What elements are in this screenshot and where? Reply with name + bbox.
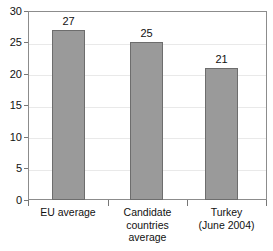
bar-value-candidate-countries-average: 25 <box>130 28 163 39</box>
y-tick-label-15: 15 <box>0 100 22 111</box>
bar-eu-average[interactable] <box>52 30 85 200</box>
x-category-label-candidate-countries-average: Candidate countries average <box>108 206 187 244</box>
x-category-line: Turkey <box>187 206 266 219</box>
x-category-label-turkey-june-2004: Turkey (June 2004) <box>187 206 266 231</box>
y-tick-label-25: 25 <box>0 37 22 48</box>
y-tick-label-30: 30 <box>0 6 22 17</box>
x-tick-mark-end <box>266 200 267 206</box>
x-category-line: (June 2004) <box>187 219 266 232</box>
bar-value-eu-average: 27 <box>52 16 85 27</box>
y-tick-label-10: 10 <box>0 132 22 143</box>
x-category-line: EU average <box>28 206 108 219</box>
x-category-line: average <box>108 231 187 244</box>
bar-value-turkey-june-2004: 21 <box>205 54 238 65</box>
y-tick-label-0: 0 <box>0 195 22 206</box>
bar-turkey-june-2004[interactable] <box>205 68 238 200</box>
y-tick-label-5: 5 <box>0 163 22 174</box>
y-tick-label-20: 20 <box>0 69 22 80</box>
bars-layer <box>28 11 267 200</box>
bar-chart: 30 25 20 15 10 5 0 27 25 21 EU average C… <box>0 0 273 251</box>
x-category-label-eu-average: EU average <box>28 206 108 219</box>
x-category-line: Candidate <box>108 206 187 219</box>
y-axis: 30 25 20 15 10 5 0 <box>0 0 22 251</box>
x-category-line: countries <box>108 219 187 232</box>
bar-candidate-countries-average[interactable] <box>130 42 163 200</box>
